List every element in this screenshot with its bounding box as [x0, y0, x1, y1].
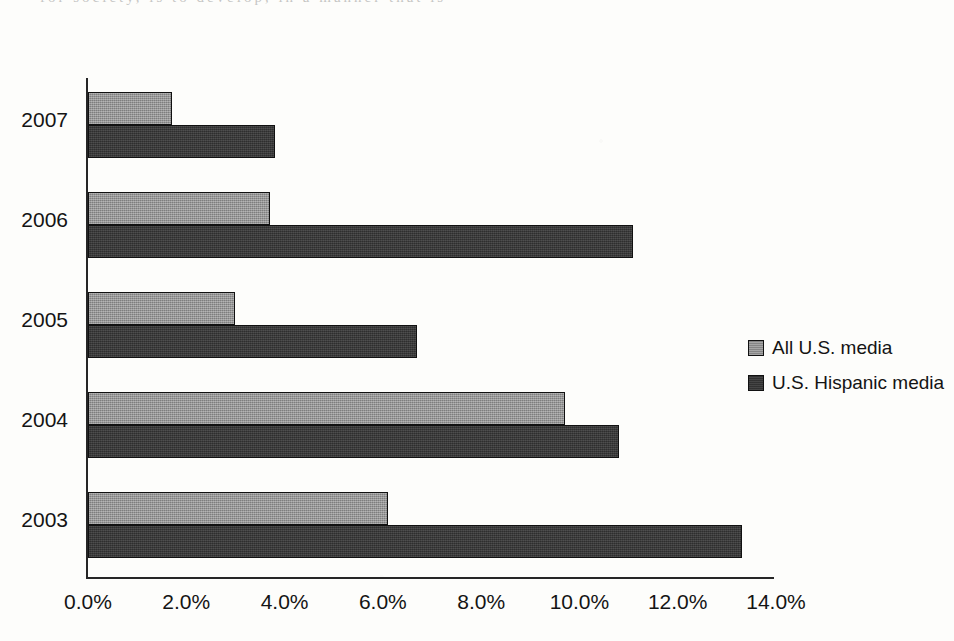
year-group-2003: 2003: [88, 478, 776, 578]
legend-item-1[interactable]: U.S. Hispanic media: [748, 365, 948, 400]
legend-item-0[interactable]: All U.S. media: [748, 330, 948, 365]
plot-area: 20072006200520042003: [88, 78, 776, 577]
x-tick-8: 8.0%: [457, 590, 505, 614]
bar-2007-series-0[interactable]: [88, 92, 172, 125]
bar-2006-series-1[interactable]: [88, 225, 633, 258]
x-tick-6: 6.0%: [359, 590, 407, 614]
chart-legend: All U.S. mediaU.S. Hispanic media: [748, 330, 948, 400]
y-axis-label-2007: 2007: [21, 108, 68, 132]
legend-label-0: All U.S. media: [772, 337, 892, 359]
bar-chart: 20072006200520042003 0.0%2.0%4.0%6.0%8.0…: [0, 0, 954, 641]
bar-2005-series-1[interactable]: [88, 325, 417, 358]
legend-swatch-icon-1: [748, 375, 764, 391]
bar-2006-series-0[interactable]: [88, 192, 270, 225]
x-tick-14: 14.0%: [746, 590, 806, 614]
x-axis-tick-labels: 0.0%2.0%4.0%6.0%8.0%10.0%12.0%14.0%: [0, 590, 954, 622]
x-tick-4: 4.0%: [261, 590, 309, 614]
bar-2004-series-1[interactable]: [88, 425, 619, 458]
bar-2003-series-0[interactable]: [88, 492, 388, 525]
x-tick-10: 10.0%: [550, 590, 610, 614]
bar-2005-series-0[interactable]: [88, 292, 235, 325]
y-axis-label-2006: 2006: [21, 208, 68, 232]
y-axis-label-2004: 2004: [21, 408, 68, 432]
bar-2004-series-0[interactable]: [88, 392, 565, 425]
year-group-2006: 2006: [88, 178, 776, 278]
year-group-2007: 2007: [88, 78, 776, 178]
y-axis-label-2005: 2005: [21, 308, 68, 332]
x-tick-0: 0.0%: [64, 590, 112, 614]
year-group-2004: 2004: [88, 378, 776, 478]
bar-2007-series-1[interactable]: [88, 125, 275, 158]
y-axis-label-2003: 2003: [21, 508, 68, 532]
legend-label-1: U.S. Hispanic media: [772, 372, 944, 394]
legend-swatch-icon-0: [748, 340, 764, 356]
bar-2003-series-1[interactable]: [88, 525, 742, 558]
year-group-2005: 2005: [88, 278, 776, 378]
x-tick-2: 2.0%: [162, 590, 210, 614]
x-tick-12: 12.0%: [648, 590, 708, 614]
